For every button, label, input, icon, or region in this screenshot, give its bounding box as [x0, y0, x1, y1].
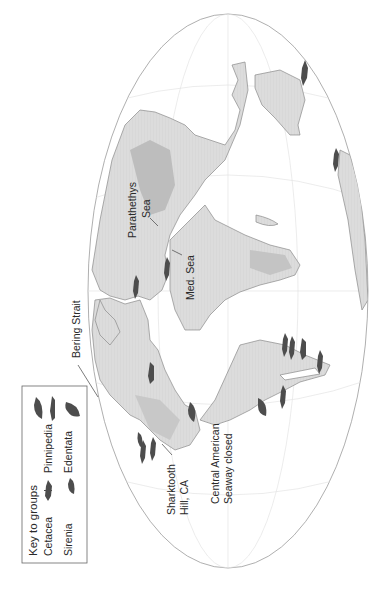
label-med-sea: Med. Sea [184, 255, 196, 300]
legend-label-pinnipedia: Pinnipedia [42, 424, 54, 473]
label-line: Parathethys [126, 182, 138, 238]
label-sharktooth-hill-2: Hill, CA [178, 480, 190, 515]
legend: Key to groups Cetacea Pinnipedia Sirenia… [22, 386, 87, 563]
label-seaway-2: Seaway closed [222, 433, 234, 504]
label-parathethys-sea: Parathethys [126, 182, 138, 238]
label-line: Sea [140, 199, 152, 218]
legend-label-sirenia: Sirenia [62, 523, 74, 556]
label-bering-strait: Bering Strait [70, 300, 82, 358]
legend-title: Key to groups [27, 485, 39, 556]
label-sharktooth-hill: Sharktooth [165, 464, 177, 515]
label-parathethys-sea-2: Sea [140, 199, 152, 218]
label-seaway: Central American [209, 423, 221, 504]
legend-label-cetacea: Cetacea [42, 517, 54, 556]
legend-label-edentata: Edentata [62, 431, 74, 473]
world-map: Parathethys Sea Med. Sea Bering Strait S… [0, 0, 377, 597]
